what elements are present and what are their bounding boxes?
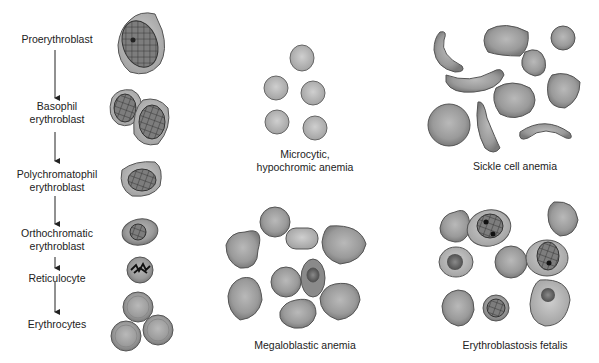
orthochromatic-erythroblast-cell [120, 216, 160, 248]
microcytic-cells [264, 45, 327, 140]
reticulocyte-cell [127, 257, 153, 283]
panel-label-erythroblastosis: Erythroblastosis fetalis [440, 339, 590, 352]
stage-label-line: erythroblast [2, 240, 112, 253]
stage-label-line: Proerythroblast [2, 33, 112, 46]
stage-label-erythrocytes: Erythrocytes [2, 318, 112, 331]
stage-label-line: Polychromatophil [2, 168, 112, 181]
stage-label-basophil: Basophil erythroblast [2, 100, 112, 126]
erythroblastosis-cells [439, 202, 578, 326]
stage-label-polychromatophil: Polychromatophil erythroblast [2, 168, 112, 194]
stage-label-proerythroblast: Proerythroblast [2, 33, 112, 46]
stage-label-reticulocyte: Reticulocyte [2, 272, 112, 285]
megaloblastic-cells [226, 207, 366, 328]
stage-label-line: Erythrocytes [2, 318, 112, 331]
panel-label-sickle: Sickle cell anemia [450, 160, 580, 173]
panel-label-megaloblastic: Megaloblastic anemia [235, 339, 375, 352]
stage-label-orthochromatic: Orthochromatic erythroblast [2, 227, 112, 253]
basophil-erythroblast-cells [110, 90, 169, 145]
stage-label-line: Basophil [2, 100, 112, 113]
polychromatophil-erythroblast-cell [121, 162, 161, 197]
panel-label-microcytic: Microcytic, hypochromic anemia [240, 148, 370, 174]
panel-label-line: Microcytic, [240, 148, 370, 161]
proerythroblast-cell [116, 13, 165, 74]
sickle-cells [428, 25, 580, 152]
erythrocytes-cells [111, 292, 173, 351]
stage-label-line: erythroblast [2, 113, 112, 126]
stage-label-line: Orthochromatic [2, 227, 112, 240]
stage-label-line: Reticulocyte [2, 272, 112, 285]
stage-label-line: erythroblast [2, 181, 112, 194]
panel-label-line: hypochromic anemia [240, 161, 370, 174]
